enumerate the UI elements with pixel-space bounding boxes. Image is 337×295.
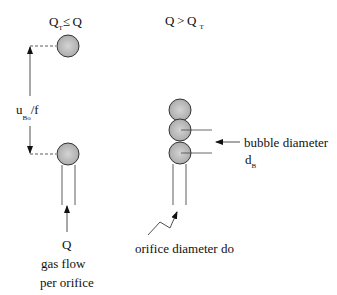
right-bubble-top — [169, 99, 191, 121]
cond-op: > — [177, 13, 184, 28]
flow-symbol: Q — [62, 238, 71, 251]
left-bottom-bubble — [57, 143, 79, 165]
spacing-label: uBo/f — [16, 103, 39, 122]
flow-caption-line2: per orifice — [40, 276, 94, 289]
left-top-bubble — [57, 35, 79, 57]
d-sub: B — [252, 162, 257, 170]
orifice-diameter-label: orifice diameter do — [135, 242, 234, 255]
bubble-diameter-label: bubble diameter — [244, 136, 328, 149]
spacing-suffix: /f — [31, 102, 39, 117]
left-condition-label: QT≤ Q — [49, 15, 82, 32]
orifice-diameter-zigzag-arrow — [148, 212, 177, 235]
spacing-sub: Bo — [23, 114, 31, 122]
cond-rhs: Q — [72, 14, 81, 29]
cond-lhs: Q — [49, 14, 58, 29]
bubble-diameter-symbol: dB — [245, 153, 256, 170]
flow-caption-line1: gas flow — [41, 257, 85, 270]
cond-rhs-sub: T — [200, 23, 204, 31]
cond-lhs: Q — [165, 13, 174, 28]
cond-op: ≤ — [63, 14, 70, 29]
cond-rhs: Q — [187, 13, 196, 28]
right-condition-label: Q > Q T — [165, 14, 204, 31]
